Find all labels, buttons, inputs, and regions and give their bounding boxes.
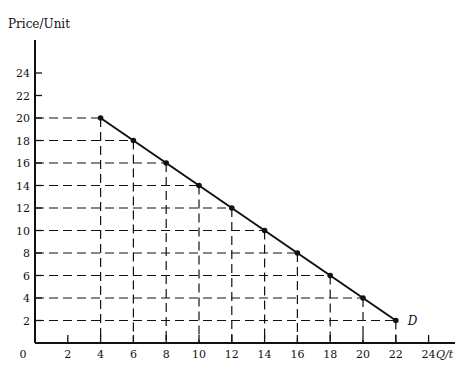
y-tick-label: 2: [23, 315, 30, 328]
y-tick-label: 20: [16, 112, 30, 125]
y-tick-label: 16: [16, 157, 30, 170]
x-tick-label: 10: [192, 348, 206, 361]
x-tick-label: 16: [290, 348, 304, 361]
x-axis-label: Q/t: [436, 348, 454, 361]
y-tick-label: 8: [23, 247, 30, 260]
x-tick-label: 6: [130, 348, 137, 361]
data-point: [327, 273, 333, 279]
data-point: [98, 115, 104, 121]
x-tick-label: 2: [64, 348, 71, 361]
y-tick-label: 24: [16, 67, 30, 80]
data-point: [262, 228, 268, 234]
x-tick-label: 4: [97, 348, 104, 361]
x-tick-label: 20: [356, 348, 370, 361]
data-point: [163, 160, 169, 166]
origin-label: 0: [20, 348, 27, 361]
y-tick-label: 22: [16, 90, 30, 103]
x-tick-label: 14: [258, 348, 272, 361]
y-axis-label: Price/Unit: [8, 17, 70, 31]
data-point: [295, 250, 301, 256]
data-point: [360, 295, 366, 301]
curve-label: D: [407, 314, 418, 328]
y-tick-label: 10: [16, 225, 30, 238]
demand-curve-chart: 2468101214161820222424681012141618202224…: [0, 0, 472, 378]
x-tick-label: 18: [323, 348, 337, 361]
y-tick-label: 12: [16, 202, 30, 215]
y-tick-label: 4: [23, 292, 30, 305]
data-point: [196, 183, 202, 189]
x-tick-label: 12: [225, 348, 239, 361]
x-tick-label: 8: [163, 348, 170, 361]
y-tick-label: 14: [16, 180, 30, 193]
data-point: [131, 138, 137, 144]
y-tick-label: 18: [16, 135, 30, 148]
data-point: [393, 318, 399, 324]
demand-curve: [101, 118, 396, 321]
y-tick-label: 6: [23, 270, 30, 283]
data-point: [229, 205, 235, 211]
x-tick-label: 22: [389, 348, 403, 361]
x-tick-label: 24: [422, 348, 436, 361]
